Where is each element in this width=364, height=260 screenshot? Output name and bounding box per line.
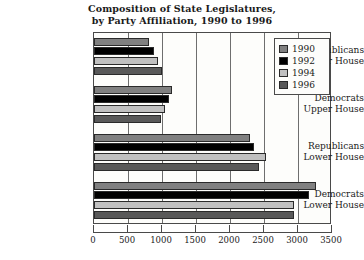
bar-1990-0 [94, 38, 149, 46]
category-label-3: DemocratsLower House [276, 189, 364, 210]
legend-item-1990: 1990 [279, 43, 326, 54]
bar-1994-0 [94, 57, 158, 65]
bar-1996-2 [94, 163, 259, 171]
legend-label-1996: 1996 [292, 80, 315, 90]
bar-1992-1 [94, 95, 169, 103]
category-label-1-line-1: Upper House [276, 104, 364, 115]
category-label-3-line-0: Democrats [276, 189, 364, 200]
bar-1994-2 [94, 153, 266, 161]
bar-1996-1 [94, 115, 161, 123]
x-tick-2000 [229, 225, 230, 233]
bar-1990-2 [94, 134, 250, 142]
x-tick-label-3500: 3500 [311, 235, 351, 245]
legend-swatch-1992 [279, 57, 288, 65]
legend-swatch-1994 [279, 69, 288, 77]
x-tick-1500 [195, 225, 196, 233]
bar-1996-0 [94, 67, 162, 75]
bar-1990-1 [94, 86, 172, 94]
legend-item-1996: 1996 [279, 79, 326, 90]
legend-label-1994: 1994 [292, 68, 315, 78]
bar-1992-0 [94, 47, 154, 55]
legend: 1990199219941996 [274, 38, 330, 95]
legend-item-1992: 1992 [279, 55, 326, 66]
x-tick-0 [93, 225, 94, 233]
x-tick-3500 [331, 225, 332, 233]
bar-1996-3 [94, 211, 294, 219]
category-label-3-line-1: Lower House [276, 200, 364, 211]
bar-1994-1 [94, 105, 165, 113]
chart-title-line-1: Composition of State Legislatures, [88, 3, 276, 14]
legend-label-1990: 1990 [292, 44, 315, 54]
category-label-1: DemocratsUpper House [276, 93, 364, 114]
category-label-2: RepublicansLower House [276, 141, 364, 162]
x-tick-1000 [161, 225, 162, 233]
category-label-2-line-0: Republicans [276, 141, 364, 152]
legend-label-1992: 1992 [292, 56, 315, 66]
bar-1994-3 [94, 201, 294, 209]
legend-swatch-1996 [279, 81, 288, 89]
bar-1992-2 [94, 143, 254, 151]
legend-swatch-1990 [279, 45, 288, 53]
legend-item-1994: 1994 [279, 67, 326, 78]
x-tick-500 [127, 225, 128, 233]
x-tick-2500 [263, 225, 264, 233]
bar-chart: Composition of State Legislatures, by Pa… [0, 0, 364, 260]
x-tick-3000 [297, 225, 298, 233]
chart-title: Composition of State Legislatures, by Pa… [0, 3, 364, 27]
chart-title-line-2: by Party Affiliation, 1990 to 1996 [0, 15, 364, 27]
category-label-2-line-1: Lower House [276, 152, 364, 163]
